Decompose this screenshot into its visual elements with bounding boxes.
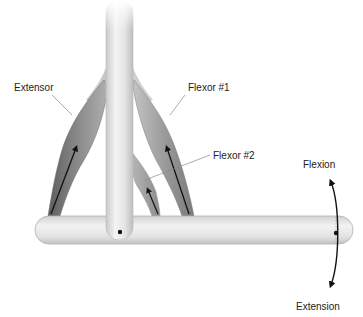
vertical-bone-pivot-dot [118,230,122,234]
flexor1-muscle [133,80,194,216]
extension-label: Extension [296,301,340,312]
vertical-bone-top-fade [104,0,135,30]
extensor-label: Extensor [14,82,54,93]
flexion-label: Flexion [303,159,335,170]
extensor-leader-line [52,95,72,115]
flexor1-leader-line [170,95,185,115]
lever-muscle-diagram: Extensor Flexor #1 Flexor #2 Flexion Ext… [0,0,363,317]
flexor1-label: Flexor #1 [188,82,230,93]
flexor2-muscle [130,150,160,216]
horizontal-bone [35,216,353,244]
vertical-bone [106,0,133,240]
flexor2-label: Flexor #2 [213,150,255,161]
